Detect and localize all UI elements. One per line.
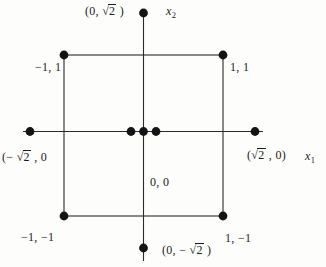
- radical: √2: [190, 243, 204, 257]
- label-point-sqrt2-0: (√2 , 0): [247, 148, 286, 162]
- radical: √2: [251, 148, 265, 162]
- label-point-neg1-1: −1, 1: [35, 61, 61, 74]
- label-point-1-1: 1, 1: [230, 61, 249, 74]
- dot-neg-sqrt2-0: [26, 127, 35, 136]
- radical: √2: [17, 150, 31, 164]
- label-point-origin: 0, 0: [150, 176, 169, 189]
- radical-arg: 2: [195, 243, 203, 257]
- label-text-after: ): [204, 243, 212, 257]
- dot-sqrt2-0: [251, 127, 260, 136]
- x2-axis-label: x2: [166, 5, 176, 22]
- label-text-before: (−: [2, 150, 17, 164]
- dot-neg1-1: [60, 51, 69, 60]
- x2-axis-subscript: 2: [172, 10, 176, 20]
- dot-1-1: [219, 51, 228, 60]
- radical-arg: 2: [257, 148, 265, 162]
- label-text-after: , 0: [31, 150, 47, 164]
- radical-arg: 2: [23, 150, 31, 164]
- signal-constellation-diagram: (0, √2 ) x2 −1, 1 1, 1 (− √2 , 0 (√2 , 0…: [0, 0, 326, 267]
- dot-1-neg1: [219, 212, 228, 221]
- label-point-0-neg-sqrt2: (0, − √2 ): [162, 243, 211, 257]
- label-text-before: (0,: [85, 4, 102, 18]
- dot-neg1-neg1: [60, 212, 69, 221]
- label-text-after: ): [116, 4, 124, 18]
- x1-axis-label: x1: [305, 150, 315, 167]
- label-text-before: (0, −: [162, 243, 190, 257]
- label-point-0-sqrt2: (0, √2 ): [85, 4, 124, 18]
- dot-origin-right: [152, 127, 161, 136]
- radical: √2: [102, 4, 116, 18]
- dot-origin: [139, 127, 148, 136]
- label-text-after: , 0): [266, 148, 287, 162]
- dot-0-sqrt2: [139, 9, 148, 18]
- dot-0-neg-sqrt2: [139, 244, 148, 253]
- label-point-1-neg1: 1, −1: [225, 232, 251, 245]
- diagram-canvas: [0, 0, 326, 267]
- label-point-neg1-neg1: −1, −1: [21, 231, 54, 244]
- label-point-neg-sqrt2-0: (− √2 , 0: [2, 150, 47, 164]
- dot-origin-left: [127, 127, 136, 136]
- x1-axis-subscript: 1: [311, 155, 315, 165]
